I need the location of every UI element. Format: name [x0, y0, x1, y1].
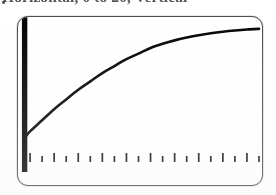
- data-curve: [25, 29, 259, 137]
- caption-strip: Horizontal, 0 to 20, Vertical: [0, 0, 276, 9]
- graphing-calculator-screen: [17, 16, 263, 186]
- caption-text: Horizontal, 0 to 20, Vertical: [2, 0, 187, 6]
- plot-canvas: [18, 17, 261, 184]
- screen-plot-area: [18, 17, 262, 185]
- x-axis-tick-group: [30, 153, 259, 162]
